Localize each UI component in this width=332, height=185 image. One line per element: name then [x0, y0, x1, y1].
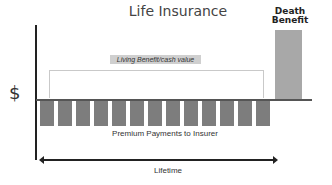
premium-bar — [40, 100, 54, 126]
living-benefit-label: Living Benefit/cash value — [110, 55, 201, 64]
premium-bar — [130, 100, 144, 126]
living-benefit-bracket — [49, 70, 264, 98]
death-benefit-label-line2: Benefit — [270, 16, 310, 25]
premium-payments-label: Premium Payments to Insurer — [80, 129, 250, 138]
premium-bar — [220, 100, 234, 126]
arrow-right-icon — [273, 156, 278, 164]
premium-bar — [148, 100, 162, 126]
premium-bar — [58, 100, 72, 126]
premium-bar — [202, 100, 216, 126]
y-axis — [35, 25, 37, 160]
arrow-left-icon — [39, 156, 44, 164]
premium-bar — [184, 100, 198, 126]
death-benefit-bar — [275, 30, 302, 99]
premium-bar — [112, 100, 126, 126]
death-benefit-label: Death Benefit — [270, 7, 310, 25]
premium-bar — [76, 100, 90, 126]
premium-bar — [238, 100, 252, 126]
dollar-axis-label: $ — [9, 82, 20, 103]
lifetime-arrow-line — [41, 159, 275, 161]
premium-bar — [256, 100, 270, 126]
premium-bar — [94, 100, 108, 126]
baseline — [36, 99, 312, 101]
lifetime-label: Lifetime — [130, 166, 206, 175]
premium-bar — [166, 100, 180, 126]
title-text: Life Insurance — [128, 3, 228, 19]
